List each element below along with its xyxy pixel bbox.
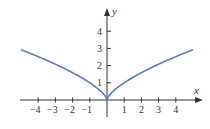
x-tick-label: 1 <box>122 104 127 115</box>
y-ticks: 1234 <box>97 26 111 89</box>
x-tick-label: −3 <box>47 104 58 115</box>
y-tick-label: 2 <box>97 60 102 71</box>
x-tick-label: −2 <box>64 104 75 115</box>
x-tick-label: 3 <box>156 104 161 115</box>
x-tick-label: −1 <box>81 104 92 115</box>
y-axis-label: y <box>111 5 117 17</box>
function-graph: x y −4−3−2−11234 1234 <box>0 0 210 129</box>
x-tick-label: 4 <box>173 104 178 115</box>
y-tick-label: 1 <box>97 77 102 88</box>
y-tick-label: 3 <box>97 43 102 54</box>
y-tick-label: 4 <box>97 26 102 37</box>
x-tick-label: −4 <box>30 104 41 115</box>
x-axis-arrow-icon <box>195 97 203 103</box>
x-axis-label: x <box>193 84 199 96</box>
x-tick-label: 2 <box>139 104 144 115</box>
y-axis-arrow-icon <box>104 8 110 16</box>
